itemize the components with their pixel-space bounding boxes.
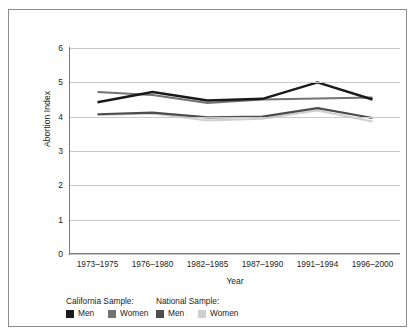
legend-label-1-0: Men xyxy=(168,309,184,318)
x-tick-label-2: 1982–1985 xyxy=(180,259,235,273)
x-axis-tick-labels: 1973–19751976–19801982–19851987–19901991… xyxy=(70,259,400,273)
gridline-y-1 xyxy=(70,220,400,221)
legend-entry-0-0[interactable]: Men xyxy=(66,309,108,318)
legend-headings-row: California Sample:National Sample: xyxy=(66,296,396,306)
legend-label-1-1: Women xyxy=(210,309,238,318)
y-tick-label-3: 3 xyxy=(43,147,63,155)
legend-swatch-icon-1-0 xyxy=(156,310,164,318)
y-tick-label-5: 5 xyxy=(43,78,63,86)
gridline-y-0 xyxy=(70,254,400,255)
gridline-y-4 xyxy=(70,117,400,118)
y-tick-label-1: 1 xyxy=(43,216,63,224)
y-axis-tick-labels: 0123456 xyxy=(43,10,63,336)
y-tick-label-4: 4 xyxy=(43,113,63,121)
x-tick-label-5: 1996–2000 xyxy=(345,259,400,273)
gridline-y-6 xyxy=(70,48,400,49)
gridline-y-5 xyxy=(70,82,400,83)
chart-legend: California Sample:National Sample: MenWo… xyxy=(66,296,396,318)
x-tick-label-1: 1976–1980 xyxy=(125,259,180,273)
legend-swatch-icon-0-0 xyxy=(66,310,74,318)
x-tick-label-3: 1987–1990 xyxy=(235,259,290,273)
gridline-y-3 xyxy=(70,151,400,152)
x-axis-line xyxy=(69,253,400,254)
y-tick-label-0: 0 xyxy=(43,250,63,258)
x-tick-label-0: 1973–1975 xyxy=(70,259,125,273)
gridline-y-2 xyxy=(70,185,400,186)
legend-entry-0-1[interactable]: Women xyxy=(108,309,156,318)
legend-entry-1-1[interactable]: Women xyxy=(198,309,246,318)
figure-container: Abortion Index 0123456 1973–19751976–198… xyxy=(0,0,415,336)
series-line-0 xyxy=(98,82,373,102)
x-tick-label-4: 1991–1994 xyxy=(290,259,345,273)
plot-area xyxy=(70,48,400,254)
legend-label-0-1: Women xyxy=(120,309,148,318)
y-axis-line xyxy=(69,47,70,255)
legend-heading-1: National Sample: xyxy=(156,296,246,306)
legend-swatch-icon-1-1 xyxy=(198,310,206,318)
legend-swatch-icon-0-1 xyxy=(108,310,116,318)
y-tick-label-6: 6 xyxy=(43,44,63,52)
x-axis-title: Year xyxy=(70,276,400,286)
y-tick-label-2: 2 xyxy=(43,181,63,189)
legend-entries-row: MenWomenMenWomen xyxy=(66,309,396,318)
chart-frame: Abortion Index 0123456 1973–19751976–198… xyxy=(8,9,407,327)
legend-entry-1-0[interactable]: Men xyxy=(156,309,198,318)
legend-label-0-0: Men xyxy=(78,309,94,318)
legend-heading-0: California Sample: xyxy=(66,296,156,306)
